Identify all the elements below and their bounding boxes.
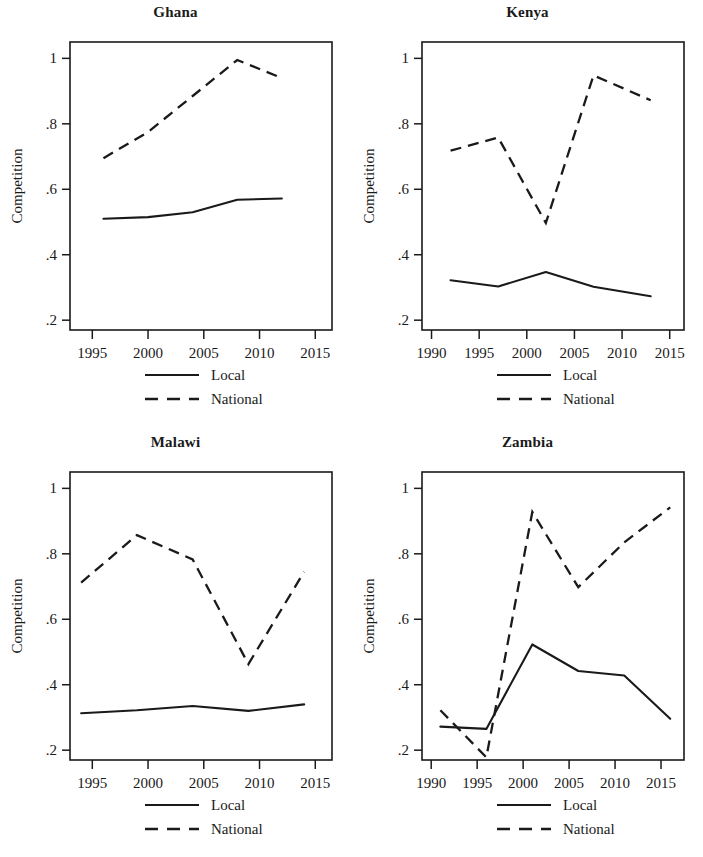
y-axis-title: Competition (9, 578, 25, 654)
x-axis-tick-label: 1995 (464, 345, 494, 361)
y-axis-tick-label: .6 (398, 181, 410, 197)
plot-svg-zambia: .2.4.6.81199019952000200520102015Competi… (352, 430, 703, 857)
x-axis-tick-label: 1995 (77, 775, 107, 791)
x-axis-tick-label: 2015 (300, 345, 330, 361)
y-axis-tick-label: .2 (46, 742, 57, 758)
y-axis-tick-label: 1 (50, 50, 58, 66)
y-axis-tick-label: 1 (50, 480, 58, 496)
legend-label-local: Local (211, 367, 245, 383)
y-axis-tick-label: .4 (398, 677, 410, 693)
panel-kenya: Kenya .2.4.6.81199019952000200520102015C… (352, 0, 703, 428)
x-axis-tick-label: 2000 (133, 775, 163, 791)
x-axis-tick-label: 2010 (607, 345, 637, 361)
legend-label-local: Local (563, 797, 597, 813)
y-axis-tick-label: .6 (398, 611, 410, 627)
y-axis-tick-label: .4 (46, 677, 58, 693)
legend-label-national: National (563, 821, 615, 837)
y-axis-tick-label: 1 (402, 480, 410, 496)
series-line-local (103, 198, 281, 218)
y-axis-tick-label: .2 (46, 312, 57, 328)
x-axis-tick-label: 1995 (77, 345, 107, 361)
legend-label-national: National (211, 391, 263, 407)
series-line-national (81, 535, 304, 664)
x-axis-tick-label: 1990 (416, 775, 446, 791)
y-axis-tick-label: 1 (402, 50, 410, 66)
y-axis-tick-label: .8 (398, 116, 409, 132)
y-axis-tick-label: .8 (398, 546, 409, 562)
y-axis-title: Competition (361, 578, 377, 654)
legend-label-local: Local (563, 367, 597, 383)
series-line-local (81, 704, 304, 713)
x-axis-tick-label: 2005 (189, 775, 219, 791)
y-axis-tick-label: .6 (46, 611, 58, 627)
legend-label-national: National (563, 391, 615, 407)
y-axis-tick-label: .6 (46, 181, 58, 197)
series-line-national (451, 75, 651, 223)
series-line-local (440, 644, 670, 728)
plot-frame (70, 42, 332, 330)
panel-zambia: Zambia .2.4.6.81199019952000200520102015… (352, 430, 703, 857)
plot-frame (422, 472, 684, 760)
x-axis-tick-label: 2000 (133, 345, 163, 361)
y-axis-tick-label: .4 (46, 247, 58, 263)
y-axis-title: Competition (9, 148, 25, 224)
x-axis-tick-label: 2015 (300, 775, 330, 791)
panel-malawi: Malawi .2.4.6.8119952000200520102015Comp… (0, 430, 351, 857)
x-axis-tick-label: 2005 (554, 775, 584, 791)
plot-svg-kenya: .2.4.6.81199019952000200520102015Competi… (352, 0, 703, 428)
x-axis-tick-label: 1995 (462, 775, 492, 791)
x-axis-tick-label: 2015 (646, 775, 676, 791)
series-line-local (451, 272, 651, 296)
x-axis-tick-label: 2010 (245, 775, 275, 791)
x-axis-tick-label: 2005 (189, 345, 219, 361)
plot-frame (70, 472, 332, 760)
y-axis-tick-label: .2 (398, 742, 409, 758)
y-axis-title: Competition (361, 148, 377, 224)
legend-label-national: National (211, 821, 263, 837)
x-axis-tick-label: 2000 (512, 345, 542, 361)
series-line-national (440, 507, 670, 757)
y-axis-tick-label: .2 (398, 312, 409, 328)
x-axis-tick-label: 1990 (417, 345, 447, 361)
plot-svg-ghana: .2.4.6.8119952000200520102015Competition… (0, 0, 351, 428)
x-axis-tick-label: 2015 (655, 345, 685, 361)
y-axis-tick-label: .8 (46, 546, 57, 562)
plot-frame (422, 42, 684, 330)
legend-label-local: Local (211, 797, 245, 813)
y-axis-tick-label: .4 (398, 247, 410, 263)
panel-ghana: Ghana .2.4.6.8119952000200520102015Compe… (0, 0, 351, 428)
plot-svg-malawi: .2.4.6.8119952000200520102015Competition… (0, 430, 351, 857)
multi-panel-line-chart-figure: Ghana .2.4.6.8119952000200520102015Compe… (0, 0, 703, 857)
x-axis-tick-label: 2005 (559, 345, 589, 361)
y-axis-tick-label: .8 (46, 116, 57, 132)
x-axis-tick-label: 2010 (600, 775, 630, 791)
x-axis-tick-label: 2000 (508, 775, 538, 791)
x-axis-tick-label: 2010 (245, 345, 275, 361)
series-line-national (103, 60, 281, 158)
